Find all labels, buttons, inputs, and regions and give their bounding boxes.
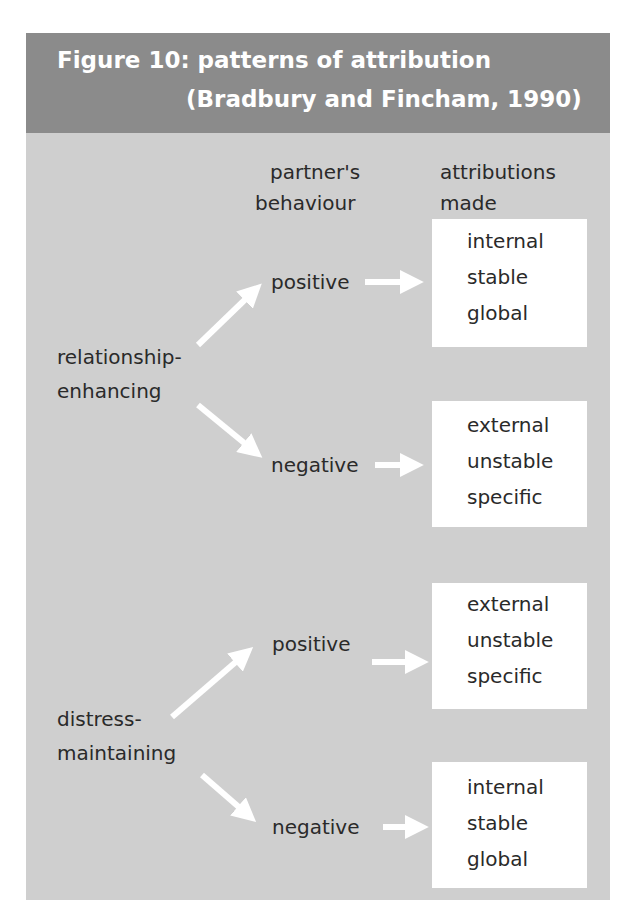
behaviour-negative: negative — [271, 455, 358, 475]
attribution-box: external unstable specific — [432, 401, 587, 527]
attribution-box: external unstable specific — [432, 583, 587, 709]
arrow-icon — [198, 405, 254, 451]
attribution-box: internal stable global — [432, 219, 587, 347]
group-label-relationship-enhancing-2: enhancing — [57, 381, 162, 401]
arrow-icon — [198, 291, 254, 345]
arrow-icon — [202, 775, 248, 815]
behaviour-negative: negative — [272, 817, 359, 837]
attribution-box: internal stable global — [432, 762, 587, 888]
group-label-distress-maintaining: distress- — [57, 709, 142, 729]
arrow-icon — [172, 654, 245, 717]
behaviour-positive: positive — [271, 272, 349, 292]
group-label-distress-maintaining-2: maintaining — [57, 743, 176, 763]
group-label-relationship-enhancing: relationship- — [57, 347, 182, 367]
behaviour-positive: positive — [272, 634, 350, 654]
